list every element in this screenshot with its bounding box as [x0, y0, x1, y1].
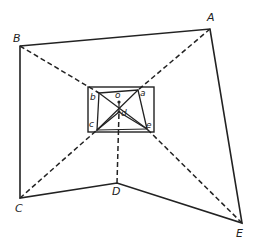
label-c: c	[89, 120, 94, 129]
projection-line-A-a	[138, 29, 210, 90]
label-d: d	[121, 109, 127, 118]
label-a: a	[140, 89, 146, 98]
diagram-lines	[0, 0, 259, 246]
label-D: D	[112, 186, 120, 197]
inner-line-c-e	[97, 129, 147, 130]
outer-polygon	[20, 29, 242, 223]
projection-line-E-e	[147, 129, 242, 223]
label-A: A	[207, 12, 215, 23]
projection-line-D-d	[117, 112, 119, 183]
label-b: b	[90, 93, 96, 102]
point-o	[117, 100, 120, 103]
label-E: E	[236, 228, 243, 239]
label-C: C	[15, 203, 23, 214]
label-o: o	[115, 91, 121, 100]
label-B: B	[13, 33, 21, 44]
label-e: e	[146, 121, 152, 130]
perspective-pyramid-diagram: A B C D E a b c d e o	[0, 0, 259, 246]
projection-line-B-b	[20, 46, 99, 93]
